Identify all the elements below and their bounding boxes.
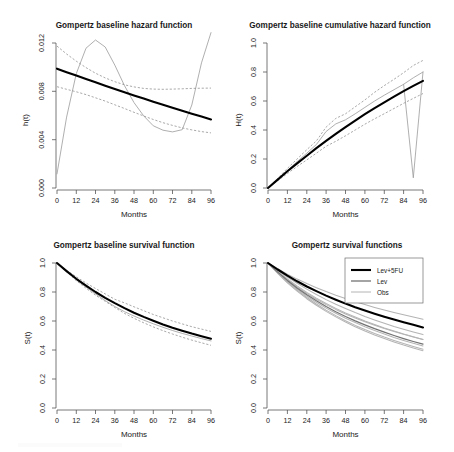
x-ticklabel: 0 xyxy=(55,416,59,425)
x-ticklabel: 60 xyxy=(361,416,369,425)
x-ticklabel: 12 xyxy=(72,196,80,205)
panel-baseline-hazard-svg: Gompertz baseline hazard function 0.000 … xyxy=(0,0,227,226)
x-ticklabel: 24 xyxy=(303,196,311,205)
y-ticklabel: 0.4 xyxy=(249,345,258,355)
y-axis-ticklabels: 0.0 0.2 0.4 0.6 0.8 1.0 xyxy=(249,258,258,413)
panel-baseline-cumulative-hazard: Gompertz baseline cumulative hazard func… xyxy=(227,0,454,226)
x-ticklabel: 24 xyxy=(92,416,100,425)
x-ticklabel: 0 xyxy=(266,196,270,205)
y-ticklabel: 0.6 xyxy=(249,96,258,106)
y-axis-ticklabels: 0.0 0.2 0.4 0.6 0.8 1.0 xyxy=(249,38,258,193)
y-ticklabel: 0.2 xyxy=(249,154,258,164)
x-ticklabel: 24 xyxy=(303,416,311,425)
x-ticklabel: 48 xyxy=(130,416,138,425)
x-ticklabel: 12 xyxy=(72,416,80,425)
y-axis-ticklabels: 0.0 0.2 0.4 0.6 0.8 1.0 xyxy=(38,258,47,413)
x-axis-ticks xyxy=(268,190,423,194)
x-ticklabel: 72 xyxy=(169,416,177,425)
y-ticklabel: 0.4 xyxy=(249,125,258,135)
x-ticklabel: 72 xyxy=(380,196,388,205)
y-ticklabel: 0.000 xyxy=(37,179,46,197)
x-ticklabel: 12 xyxy=(283,416,291,425)
x-ticklabel: 36 xyxy=(111,196,119,205)
x-axis-ticks xyxy=(57,190,211,194)
x-axis-ticklabels: 0 12 24 36 48 60 72 84 96 xyxy=(55,416,215,425)
x-axis-ticks xyxy=(57,410,211,414)
legend: Lev+5FU Lev Obs xyxy=(345,258,423,303)
y-ticklabel: 1.0 xyxy=(249,258,258,268)
y-ticklabel: 0.012 xyxy=(37,34,46,52)
legend-label-lev: Lev xyxy=(377,278,388,285)
y-axis-label: S(t) xyxy=(23,331,32,344)
y-axis-label: H(t) xyxy=(234,113,243,127)
y-axis-label: S(t) xyxy=(234,331,243,344)
x-ticklabel: 24 xyxy=(92,196,100,205)
panel-survival-by-treatment: Gompertz survival functions 0.0 0.2 0.4 … xyxy=(227,226,454,452)
y-ticklabel: 0.0 xyxy=(249,183,258,193)
panel-title: Gompertz baseline hazard function xyxy=(56,21,192,30)
y-ticklabel: 0.8 xyxy=(249,287,258,297)
x-axis-ticklabels: 0 12 24 36 48 60 72 84 96 xyxy=(266,416,427,425)
panel-title: Gompertz baseline cumulative hazard func… xyxy=(249,21,431,30)
y-axis-ticks xyxy=(263,43,267,188)
x-ticklabel: 0 xyxy=(266,416,270,425)
panel-title: Gompertz baseline survival function xyxy=(53,241,194,250)
x-ticklabel: 36 xyxy=(111,416,119,425)
panel-survival-by-treatment-svg: Gompertz survival functions 0.0 0.2 0.4 … xyxy=(227,226,454,452)
plot-area xyxy=(57,263,211,345)
x-ticklabel: 48 xyxy=(342,416,350,425)
series-cumulative-hazard xyxy=(268,81,423,188)
series-kaplan-meier xyxy=(57,263,211,341)
x-axis-label: Months xyxy=(332,210,358,219)
series-upper-ci xyxy=(57,263,211,331)
x-ticklabel: 72 xyxy=(169,196,177,205)
x-ticklabel: 36 xyxy=(322,416,330,425)
y-ticklabel: 0.6 xyxy=(249,316,258,326)
y-axis-ticks xyxy=(263,263,267,408)
panel-baseline-survival: Gompertz baseline survival function 0.0 … xyxy=(0,226,227,452)
series-lower-ci xyxy=(268,94,423,189)
y-ticklabel: 0.6 xyxy=(38,316,47,326)
y-ticklabel: 0.2 xyxy=(249,374,258,384)
x-ticklabel: 96 xyxy=(419,196,427,205)
x-ticklabel: 12 xyxy=(283,196,291,205)
x-ticklabel: 96 xyxy=(207,196,215,205)
x-axis-label: Months xyxy=(121,210,147,219)
y-ticklabel: 0.8 xyxy=(249,67,258,77)
y-ticklabel: 0.0 xyxy=(249,403,258,413)
x-axis-label: Months xyxy=(332,430,358,439)
series-upper-ci xyxy=(57,46,211,89)
panel-baseline-survival-svg: Gompertz baseline survival function 0.0 … xyxy=(0,226,227,452)
panel-baseline-hazard: Gompertz baseline hazard function 0.000 … xyxy=(0,0,227,226)
x-axis-label: Months xyxy=(121,430,147,439)
series-lower-ci xyxy=(57,87,211,133)
y-axis-ticks xyxy=(52,263,56,408)
x-axis-ticklabels: 0 12 24 36 48 60 72 84 96 xyxy=(266,196,427,205)
panel-title: Gompertz survival functions xyxy=(292,241,403,250)
x-ticklabel: 60 xyxy=(149,416,157,425)
x-ticklabel: 60 xyxy=(149,196,157,205)
figure-canvas: Gompertz baseline hazard function 0.000 … xyxy=(0,0,454,452)
series-baseline-hazard xyxy=(57,69,211,120)
y-ticklabel: 0.4 xyxy=(38,345,47,355)
panel-baseline-cumulative-hazard-svg: Gompertz baseline cumulative hazard func… xyxy=(227,0,454,226)
x-ticklabel: 48 xyxy=(342,196,350,205)
series-baseline-survival xyxy=(57,263,211,339)
y-ticklabel: 0.004 xyxy=(37,131,46,149)
y-ticklabel: 0.8 xyxy=(38,287,47,297)
x-ticklabel: 0 xyxy=(55,196,59,205)
x-axis-ticklabels: 0 12 24 36 48 60 72 84 96 xyxy=(55,196,215,205)
x-ticklabel: 72 xyxy=(380,416,388,425)
x-ticklabel: 96 xyxy=(207,416,215,425)
x-axis-ticks xyxy=(268,410,423,414)
x-ticklabel: 60 xyxy=(361,196,369,205)
y-axis-label: h(t) xyxy=(21,114,30,126)
y-ticklabel: 0.008 xyxy=(37,82,46,100)
x-ticklabel: 84 xyxy=(400,416,408,425)
x-ticklabel: 36 xyxy=(322,196,330,205)
y-ticklabel: 1.0 xyxy=(249,38,258,48)
legend-label-obs: Obs xyxy=(377,289,389,296)
y-ticklabel: 1.0 xyxy=(38,258,47,268)
scan-artifact xyxy=(18,443,122,447)
x-ticklabel: 84 xyxy=(188,196,196,205)
